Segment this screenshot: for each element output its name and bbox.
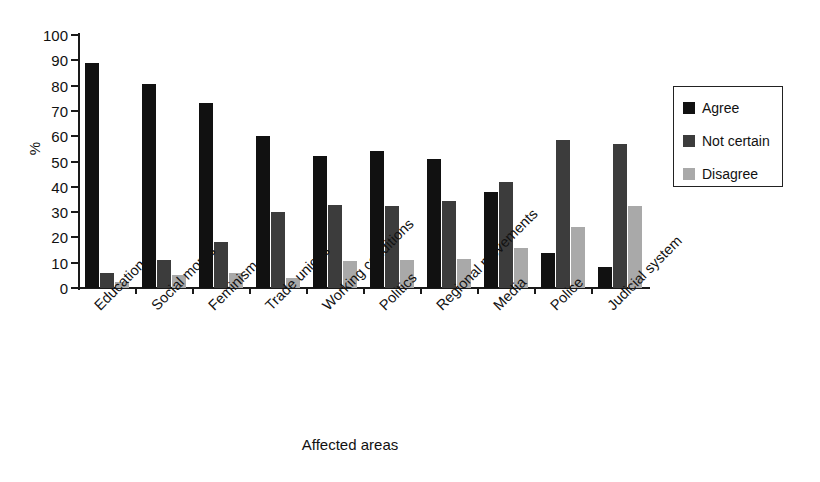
bar-group <box>135 35 192 288</box>
y-axis-tick-label: 50 <box>51 154 68 169</box>
y-axis-tick-mark <box>71 287 78 289</box>
y-axis-tick-label: 60 <box>51 129 68 144</box>
x-axis-tick-mark <box>420 287 422 294</box>
plot-area: 0102030405060708090100 <box>78 35 648 288</box>
y-axis-tick-mark <box>71 135 78 137</box>
legend-item: Disagree <box>683 167 758 181</box>
legend-item-label: Agree <box>702 101 739 115</box>
chart-legend: AgreeNot certainDisagree <box>673 86 783 187</box>
x-axis-tick-mark <box>363 287 365 294</box>
bar <box>613 144 627 288</box>
y-axis-tick-label: 80 <box>51 78 68 93</box>
legend-item: Agree <box>683 101 739 115</box>
x-axis-tick-mark <box>135 287 137 294</box>
bar <box>598 267 612 289</box>
y-axis-tick-label: 70 <box>51 103 68 118</box>
y-axis-tick-mark <box>71 211 78 213</box>
y-axis-tick-label: 40 <box>51 179 68 194</box>
legend-item-label: Not certain <box>702 134 770 148</box>
y-axis-tick-mark <box>71 236 78 238</box>
y-axis-tick-mark <box>71 262 78 264</box>
y-axis-tick-label: 90 <box>51 53 68 68</box>
bar-group <box>249 35 306 288</box>
y-axis-tick-mark <box>71 110 78 112</box>
y-axis-tick-label: 100 <box>43 28 68 43</box>
bar <box>85 63 99 288</box>
bar <box>541 253 555 288</box>
y-axis-title: % <box>26 139 43 159</box>
y-axis-tick-label: 20 <box>51 230 68 245</box>
y-axis-tick-mark <box>71 186 78 188</box>
y-axis-tick-mark <box>71 34 78 36</box>
y-axis-tick-label: 30 <box>51 205 68 220</box>
y-axis-tick-label: 0 <box>60 281 68 296</box>
bar <box>556 140 570 288</box>
bar-group <box>591 35 648 288</box>
legend-item-label: Disagree <box>702 167 758 181</box>
x-axis-tick-mark <box>249 287 251 294</box>
x-axis-tick-mark <box>192 287 194 294</box>
bar <box>271 212 285 288</box>
legend-item: Not certain <box>683 134 770 148</box>
series-1-swatch <box>683 135 695 147</box>
x-axis-tick-mark <box>534 287 536 294</box>
bar <box>142 84 156 288</box>
y-axis-tick-label: 10 <box>51 255 68 270</box>
x-axis-tick-mark <box>477 287 479 294</box>
bar <box>442 201 456 288</box>
bar-chart-figure: % 0102030405060708090100 Affected areas … <box>0 0 820 482</box>
bar-group <box>78 35 135 288</box>
y-axis-tick-mark <box>71 59 78 61</box>
bar-group <box>420 35 477 288</box>
series-0-swatch <box>683 102 695 114</box>
x-axis-tick-mark <box>306 287 308 294</box>
x-axis-title: Affected areas <box>0 436 700 453</box>
y-axis-tick-mark <box>71 161 78 163</box>
y-axis-tick-mark <box>71 85 78 87</box>
bar <box>328 205 342 288</box>
series-2-swatch <box>683 168 695 180</box>
bar <box>427 159 441 288</box>
x-axis-tick-mark <box>591 287 593 294</box>
bar-group <box>534 35 591 288</box>
